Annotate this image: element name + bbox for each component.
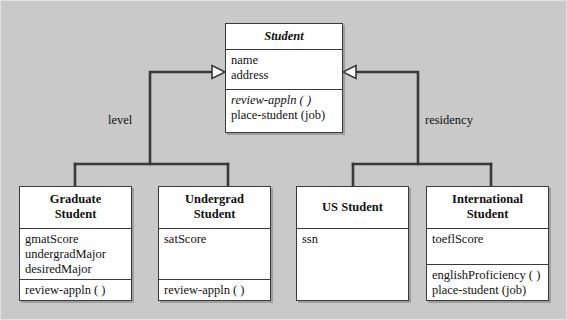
attribute-compartment-us-student: ssn [297,228,408,302]
attribute-row: ssn [302,232,403,247]
class-box-undergrad-student[interactable]: Undergrad Student satScore review-appln … [158,186,271,301]
class-name-us-student: US Student [297,187,408,228]
operation-row: place-student (job) [231,108,337,123]
class-box-us-student[interactable]: US Student ssn [296,186,409,301]
class-box-international-student[interactable]: International Student toeflScore english… [426,186,549,301]
class-name-line-1: Graduate [24,192,127,207]
attribute-row: toeflScore [432,232,543,247]
discriminator-label-level: level [108,113,132,127]
wire-residency-trunk [353,72,418,164]
operation-compartment-undergrad-student: review-appln ( ) [159,279,270,302]
class-name-line-1: US Student [301,200,404,215]
attribute-row: address [231,68,337,83]
generalization-arrowhead-right [343,66,356,79]
class-name-graduate-student: Graduate Student [20,187,131,228]
attribute-compartment-international-student: toeflScore [427,228,548,264]
wire-level-trunk [150,72,216,164]
class-name-student: Student [226,24,342,49]
class-name-line-2: Student [163,207,266,222]
attribute-compartment-student: name address [226,49,342,89]
operation-row: review-appln ( ) [231,93,337,108]
operation-row: place-student (job) [432,283,543,298]
attribute-row: name [231,53,337,68]
attribute-compartment-graduate-student: gmatScore undergradMajor desiredMajor [20,228,131,279]
operation-row: review-appln ( ) [164,283,265,298]
class-name-line-1: Undergrad [163,192,266,207]
uml-class-diagram: Student name address review-appln ( ) pl… [0,0,567,320]
class-box-student[interactable]: Student name address review-appln ( ) pl… [225,23,343,133]
attribute-row: gmatScore [25,232,126,247]
attribute-compartment-undergrad-student: satScore [159,228,270,279]
attribute-row: satScore [164,232,265,247]
class-box-graduate-student[interactable]: Graduate Student gmatScore undergradMajo… [19,186,132,301]
operation-compartment-student: review-appln ( ) place-student (job) [226,89,342,129]
class-name-line-2: Student [431,207,544,222]
discriminator-label-residency: residency [425,113,473,127]
operation-compartment-international-student: englishProficiency ( ) place-student (jo… [427,264,548,302]
class-name-line-1: International [431,192,544,207]
generalization-arrowhead-left [212,66,225,79]
operation-row: review-appln ( ) [25,283,126,298]
operation-compartment-graduate-student: review-appln ( ) [20,279,131,302]
class-name-line-2: Student [24,207,127,222]
operation-row: englishProficiency ( ) [432,268,543,283]
class-name-international-student: International Student [427,187,548,228]
attribute-row: desiredMajor [25,262,126,277]
class-name-undergrad-student: Undergrad Student [159,187,270,228]
attribute-row: undergradMajor [25,247,126,262]
